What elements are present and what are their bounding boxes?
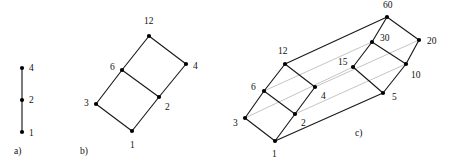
node-label-c-3: 3 bbox=[233, 118, 238, 128]
edges-layer-dark bbox=[22, 17, 419, 141]
node-dot-c-5 bbox=[381, 91, 385, 95]
edge-4-20 bbox=[315, 40, 419, 87]
edge-2-4 bbox=[159, 64, 186, 97]
node-label-a-2: 2 bbox=[29, 95, 34, 105]
edge-2-10 bbox=[295, 64, 406, 114]
node-dot-b-3 bbox=[94, 102, 98, 106]
node-label-b-12: 12 bbox=[144, 16, 154, 26]
node-label-c-1: 1 bbox=[272, 149, 277, 159]
node-dot-b-1 bbox=[130, 129, 134, 133]
edge-4-12 bbox=[285, 64, 315, 87]
edge-10-30 bbox=[372, 42, 406, 64]
node-dot-c-1 bbox=[273, 139, 277, 143]
node-label-c-15: 15 bbox=[338, 57, 348, 67]
panel-caption-a: a) bbox=[14, 146, 21, 157]
edge-4-12 bbox=[149, 36, 186, 64]
edge-15-30 bbox=[353, 42, 372, 67]
node-label-b-6: 6 bbox=[110, 62, 115, 72]
node-dot-c-30 bbox=[370, 40, 374, 44]
node-dot-c-10 bbox=[404, 62, 408, 66]
node-label-b-1: 1 bbox=[130, 140, 135, 150]
node-label-b-3: 3 bbox=[84, 98, 89, 108]
edge-1-3 bbox=[96, 104, 132, 131]
edge-5-10 bbox=[383, 64, 406, 93]
node-label-c-60: 60 bbox=[383, 0, 393, 10]
panel-captions-layer: a)b)c) bbox=[14, 128, 362, 157]
node-dot-c-3 bbox=[243, 116, 247, 120]
panel-caption-c: c) bbox=[355, 128, 362, 139]
edge-3-6 bbox=[96, 70, 122, 104]
hasse-diagram-canvas: 1241234612123456101215203060 a)b)c) bbox=[0, 0, 451, 163]
edges-layer-light bbox=[245, 40, 419, 118]
node-dot-b-4 bbox=[184, 62, 188, 66]
node-dot-c-6 bbox=[262, 89, 266, 93]
edge-6-12 bbox=[264, 64, 285, 91]
edge-5-15 bbox=[353, 67, 383, 93]
node-dot-c-60 bbox=[385, 15, 389, 19]
node-dot-b-12 bbox=[147, 34, 151, 38]
node-dot-c-4 bbox=[313, 85, 317, 89]
node-dot-c-2 bbox=[293, 112, 297, 116]
node-label-a-4: 4 bbox=[29, 63, 34, 73]
node-label-a-1: 1 bbox=[29, 128, 34, 138]
node-label-c-5: 5 bbox=[392, 92, 397, 102]
node-label-c-20: 20 bbox=[427, 36, 437, 46]
node-label-b-4: 4 bbox=[193, 61, 198, 71]
figure-root: 1241234612123456101215203060 a)b)c) bbox=[0, 0, 451, 163]
edge-1-2 bbox=[132, 97, 159, 131]
node-label-c-30: 30 bbox=[380, 33, 390, 43]
edge-2-6 bbox=[122, 70, 159, 97]
edge-20-60 bbox=[387, 17, 419, 40]
node-dot-a-4 bbox=[20, 66, 24, 70]
node-dot-a-1 bbox=[20, 130, 24, 134]
node-label-c-6: 6 bbox=[251, 82, 256, 92]
node-label-b-2: 2 bbox=[165, 102, 170, 112]
node-dot-b-2 bbox=[157, 95, 161, 99]
node-dot-c-15 bbox=[351, 65, 355, 69]
node-dot-c-12 bbox=[283, 62, 287, 66]
node-label-c-4: 4 bbox=[321, 91, 326, 101]
edge-10-20 bbox=[406, 40, 419, 64]
nodes-layer bbox=[20, 15, 421, 143]
edge-1-3 bbox=[245, 118, 275, 141]
edge-1-5 bbox=[275, 93, 383, 141]
node-dot-b-6 bbox=[120, 68, 124, 72]
node-label-c-2: 2 bbox=[301, 118, 306, 128]
node-label-c-12: 12 bbox=[278, 46, 288, 56]
node-labels-layer: 1241234612123456101215203060 bbox=[29, 0, 437, 159]
edge-2-6 bbox=[264, 91, 295, 114]
node-dot-a-2 bbox=[20, 98, 24, 102]
node-label-c-10: 10 bbox=[411, 70, 421, 80]
panel-caption-b: b) bbox=[80, 146, 88, 157]
node-dot-c-20 bbox=[417, 38, 421, 42]
edge-6-12 bbox=[122, 36, 149, 70]
